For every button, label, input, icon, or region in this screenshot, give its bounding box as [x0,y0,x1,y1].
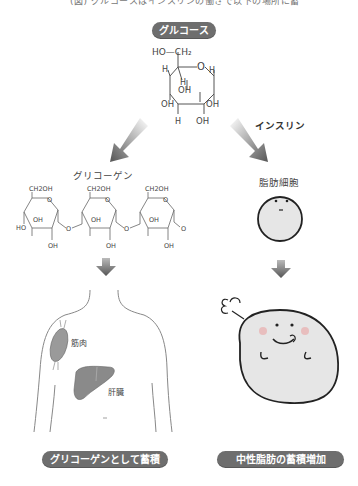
glycogen-storage-badge: グリコーゲンとして蓄積 [42,451,168,468]
puff-icon [221,298,244,319]
large-fat-cell-icon [0,0,358,486]
fat-storage-badge: 中性脂肪の蓄積増加 [217,451,344,468]
